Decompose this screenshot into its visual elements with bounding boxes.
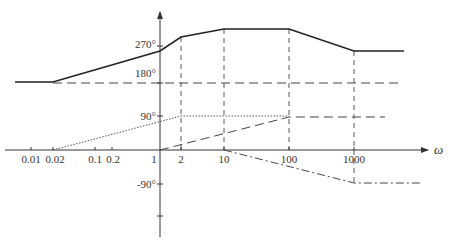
lead-dotted-curve bbox=[53, 116, 289, 150]
lag-dashdot-curve bbox=[224, 150, 422, 183]
total-phase-curve bbox=[15, 29, 404, 82]
x-tick-label: 0.01 bbox=[21, 153, 40, 165]
x-tick-label: 2 bbox=[178, 153, 184, 165]
x-axis-label: ω bbox=[434, 142, 443, 157]
x-tick-label: 0.02 bbox=[45, 153, 64, 165]
guide-lines bbox=[181, 29, 354, 183]
x-tick-label: 10 bbox=[219, 153, 231, 165]
y-tick-label: 270° bbox=[135, 38, 156, 50]
y-tick-label: 90° bbox=[141, 110, 156, 122]
bode-phase-diagram: 0.01 0.02 0.1 0.2 1 2 10 100 1000 ω 270°… bbox=[0, 0, 450, 247]
x-tick-label: 0.2 bbox=[106, 153, 120, 165]
y-tick-label: -90° bbox=[137, 178, 156, 190]
x-tick-label: 1 bbox=[151, 153, 157, 165]
x-tick-label: 100 bbox=[281, 153, 298, 165]
x-tick-label: 0.1 bbox=[88, 153, 102, 165]
lead-dashed-curve bbox=[160, 117, 385, 150]
y-tick-label: 180° bbox=[135, 67, 156, 79]
